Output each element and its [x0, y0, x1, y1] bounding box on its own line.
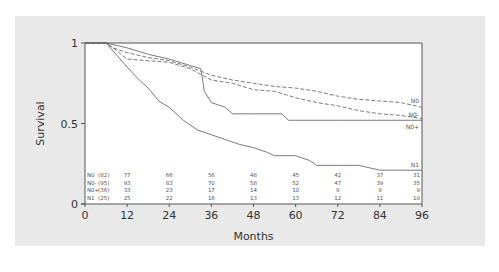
y-tick-label: 0.5 — [61, 118, 79, 131]
risk-value: 14 — [250, 187, 257, 193]
risk-row-label: N1 — [87, 195, 95, 201]
risk-value: 22 — [166, 195, 173, 201]
risk-value: 25 — [124, 195, 131, 201]
risk-value: 45 — [292, 172, 299, 178]
risk-value: 10 — [413, 195, 420, 201]
curve-label: N0- — [409, 111, 419, 118]
risk-value: 47 — [334, 180, 341, 186]
risk-value: 13 — [250, 195, 257, 201]
x-tick-label: 36 — [204, 209, 218, 222]
risk-value: 93 — [124, 180, 131, 186]
curve-label: N1 — [411, 161, 419, 168]
risk-row-total: (36) — [98, 187, 109, 193]
y-axis-label: Survival — [34, 101, 47, 145]
risk-value: 11 — [376, 195, 383, 201]
risk-value: 9 — [336, 187, 340, 193]
risk-value: 10 — [292, 187, 299, 193]
x-tick-label: 60 — [289, 209, 303, 222]
risk-value: 42 — [334, 172, 341, 178]
risk-value: 48 — [250, 172, 257, 178]
y-tick-label: 0 — [71, 198, 78, 211]
risk-value: 66 — [166, 172, 173, 178]
risk-value: 56 — [208, 172, 215, 178]
risk-value: 33 — [124, 187, 131, 193]
x-tick-label: 72 — [331, 209, 345, 222]
x-tick-label: 24 — [162, 209, 176, 222]
x-axis-label: Months — [233, 230, 273, 243]
risk-value: 37 — [376, 172, 383, 178]
risk-value: 52 — [292, 180, 299, 186]
risk-value: 12 — [334, 195, 341, 201]
risk-value: 9 — [417, 187, 421, 193]
risk-value: 23 — [166, 187, 173, 193]
risk-value: 17 — [208, 187, 215, 193]
x-tick-label: 12 — [120, 209, 134, 222]
risk-row-label: N0 — [87, 172, 95, 178]
risk-value: 70 — [208, 180, 215, 186]
x-tick-label: 84 — [373, 209, 387, 222]
risk-value: 9 — [378, 187, 382, 193]
risk-value: 31 — [413, 172, 420, 178]
x-tick-label: 96 — [415, 209, 429, 222]
risk-value: 39 — [376, 180, 383, 186]
x-tick-label: 0 — [82, 209, 89, 222]
risk-row-total: (82) — [98, 172, 109, 178]
risk-row-label: N0- — [87, 180, 97, 186]
risk-value: 13 — [292, 195, 299, 201]
x-tick-label: 48 — [247, 209, 261, 222]
curve-label: N0+ — [406, 123, 419, 130]
risk-value: 16 — [208, 195, 215, 201]
risk-value: 77 — [124, 172, 131, 178]
risk-value: 35 — [413, 180, 420, 186]
risk-value: 58 — [250, 180, 257, 186]
risk-row-total: (25) — [98, 195, 109, 201]
kaplan-meier-chart: N0N0-N0+N1 N0(82)7766564845423731N0-(95)… — [0, 0, 499, 272]
risk-value: 83 — [166, 180, 173, 186]
curve-label: N0 — [411, 97, 419, 104]
y-tick-label: 1 — [71, 37, 78, 50]
risk-row-total: (95) — [98, 180, 109, 186]
